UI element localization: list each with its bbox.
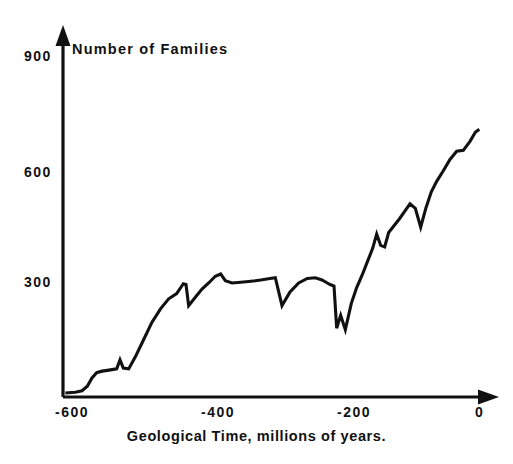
y-axis-arrowhead-icon [56,25,71,46]
x-axis-arrowhead-icon [478,390,499,405]
chart-container: 900 600 300 -600 -400 -200 0 Number of F… [0,0,513,464]
data-series-number-of-families [65,129,479,393]
chart-title: Number of Families [72,41,228,57]
x-tick-label-minus-200: -200 [337,404,371,420]
x-tick-label-zero: 0 [475,404,484,420]
x-tick-label-minus-600: -600 [55,404,89,420]
y-tick-label-300: 300 [24,274,52,290]
x-axis-title: Geological Time, millions of years. [0,428,513,444]
y-tick-label-900: 900 [24,48,52,64]
chart-plot-area [0,0,513,464]
y-tick-label-600: 600 [24,164,52,180]
x-tick-label-minus-400: -400 [201,404,235,420]
